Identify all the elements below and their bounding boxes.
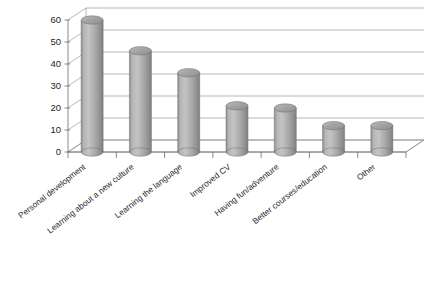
y-tick-label-20: 20 (50, 102, 61, 113)
chart-canvas: 0102030405060 Personal developmentLear (0, 0, 444, 283)
bar-2 (129, 47, 151, 157)
bar-body-3 (178, 73, 200, 156)
category-labels-group: Personal developmentLearning about a new… (16, 161, 377, 235)
bar-7 (371, 121, 393, 156)
bar-chart-figure: 0102030405060 Personal developmentLear (0, 0, 444, 283)
bar-cap-5 (274, 104, 296, 112)
y-tick-label-10: 10 (50, 124, 61, 135)
category-label-7: Other (355, 162, 378, 183)
bar-cap-2 (129, 47, 151, 55)
bar-5 (274, 104, 296, 156)
bar-body-2 (129, 51, 151, 156)
bar-3 (178, 69, 200, 157)
y-tick-label-60: 60 (50, 14, 61, 25)
bar-body-7 (371, 126, 393, 157)
y-tick-label-0: 0 (56, 146, 61, 157)
bar-1 (81, 16, 103, 156)
bar-4 (226, 102, 248, 157)
bar-cap-7 (371, 121, 393, 129)
bar-6 (323, 121, 345, 156)
category-label-2: Learning about a new culture (45, 161, 136, 235)
bar-body-1 (81, 20, 103, 156)
y-tick-label-50: 50 (50, 36, 61, 47)
bars-group (81, 16, 393, 156)
bar-cap-1 (81, 16, 103, 24)
bar-body-6 (323, 126, 345, 157)
y-axis-ticks: 0102030405060 (50, 14, 70, 157)
bar-cap-6 (323, 121, 345, 129)
y-tick-label-30: 30 (50, 80, 61, 91)
bar-cap-4 (226, 102, 248, 110)
bar-cap-3 (178, 69, 200, 77)
bar-body-4 (226, 106, 248, 156)
category-label-4: Improved CV (188, 161, 233, 199)
y-tick-label-40: 40 (50, 58, 61, 69)
